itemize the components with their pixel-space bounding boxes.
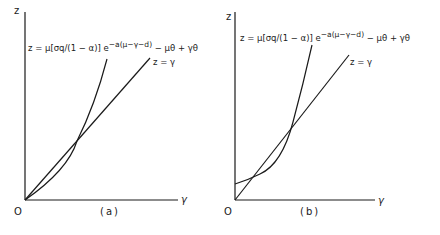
panel-b-gamma-axis-label: γ [378, 196, 384, 206]
panel-a-caption: (a) [100, 207, 120, 217]
panel-a-exponential-curve [25, 59, 107, 200]
panel-a-line-z-equals-gamma [25, 58, 150, 200]
equation-tail: − μθ + γθ [367, 33, 410, 43]
panel-b-exponential-curve [235, 45, 312, 184]
panel-b-origin-label: O [224, 207, 232, 217]
panel-b-line-label: z = γ [350, 58, 372, 67]
equation-main: z = μ[σq/(1 − α)] e [28, 43, 109, 53]
panel-b-caption: (b) [300, 207, 320, 217]
panel-a-curve-equation: z = μ[σq/(1 − α)] e−a(μ−γ−d) − μθ + γθ [28, 44, 198, 53]
panel-a-z-axis-label: z [14, 6, 19, 16]
panel-a-line-label: z = γ [153, 58, 175, 67]
panel-a-gamma-axis-label: γ [181, 195, 187, 205]
panel-a-origin-label: O [14, 207, 22, 217]
equation-exponent: −a(μ−γ−d) [321, 30, 364, 39]
equation-tail: − μθ + γθ [155, 43, 198, 53]
equation-exponent: −a(μ−γ−d) [109, 40, 152, 49]
panel-b-z-axis-label: z [226, 12, 231, 22]
equation-main: z = μ[σq/(1 − α)] e [240, 33, 321, 43]
panel-b-curve-equation: z = μ[σq/(1 − α)] e−a(μ−γ−d) − μθ + γθ [240, 34, 410, 43]
